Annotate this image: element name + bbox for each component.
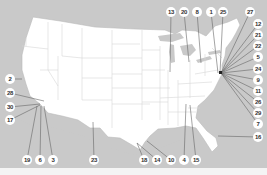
leader-line-19 <box>27 106 37 160</box>
callout-label-29: 29 <box>253 108 263 118</box>
leader-line-3 <box>44 106 53 160</box>
callout-label-30: 30 <box>5 102 15 112</box>
us-map: 1320812527122122524911262971622830171963… <box>0 0 267 168</box>
callout-label-3: 3 <box>48 155 58 165</box>
callout-label-27: 27 <box>245 7 255 17</box>
callout-label-19: 19 <box>22 155 32 165</box>
callout-label-12: 12 <box>253 19 263 29</box>
leader-line-27 <box>221 12 250 73</box>
callout-label-24: 24 <box>253 64 263 74</box>
leader-line-4 <box>184 104 186 160</box>
callout-label-11: 11 <box>253 86 263 96</box>
callout-label-9: 9 <box>253 75 263 85</box>
callout-label-8: 8 <box>192 7 202 17</box>
callout-label-23: 23 <box>89 155 99 165</box>
callout-label-5: 5 <box>253 52 263 62</box>
callout-label-25: 25 <box>218 7 228 17</box>
leader-line-6 <box>40 106 41 160</box>
callout-label-2: 2 <box>5 74 15 84</box>
callout-label-28: 28 <box>5 88 15 98</box>
callout-label-10: 10 <box>166 155 176 165</box>
callout-label-4: 4 <box>179 155 189 165</box>
callout-label-22: 22 <box>253 41 263 51</box>
convergence-marker-icon <box>219 71 222 74</box>
leader-line-28 <box>10 93 44 101</box>
callout-label-16: 16 <box>253 132 263 142</box>
callout-label-21: 21 <box>253 30 263 40</box>
leader-line-15 <box>190 105 196 160</box>
bottom-strip <box>0 168 267 175</box>
leader-line-25 <box>220 12 223 73</box>
callout-label-18: 18 <box>139 155 149 165</box>
callout-label-26: 26 <box>253 97 263 107</box>
leader-line-8 <box>197 12 201 63</box>
leader-line-1 <box>211 12 218 73</box>
leader-line-13 <box>170 12 171 72</box>
callout-label-14: 14 <box>152 155 162 165</box>
callout-label-15: 15 <box>191 155 201 165</box>
callout-label-17: 17 <box>5 115 15 125</box>
callout-label-7: 7 <box>253 119 263 129</box>
leader-lines <box>0 0 267 168</box>
leader-line-20 <box>184 12 189 62</box>
leader-line-16 <box>218 136 258 137</box>
callout-label-13: 13 <box>166 7 176 17</box>
callout-label-1: 1 <box>206 7 216 17</box>
callout-label-6: 6 <box>35 155 45 165</box>
leader-line-12 <box>221 24 258 73</box>
callout-label-20: 20 <box>179 7 189 17</box>
